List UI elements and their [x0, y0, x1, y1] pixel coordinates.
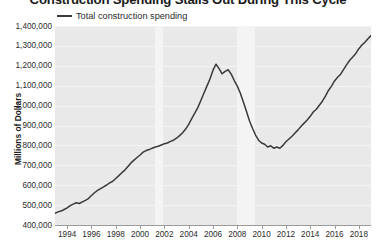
x-axis-tick-mark	[335, 225, 336, 229]
y-axis-tick-label: 800,000	[0, 141, 52, 150]
plot-area	[55, 26, 371, 225]
y-axis-tick-label: 700,000	[0, 161, 52, 170]
x-axis-tick-mark	[67, 225, 68, 229]
x-axis-tick-mark	[189, 225, 190, 229]
construction-spending-chart: Construction Spending Stalls Out During …	[0, 0, 376, 250]
x-axis-tick-mark	[262, 225, 263, 229]
x-axis-tick-mark	[359, 225, 360, 229]
x-axis-tick-mark	[286, 225, 287, 229]
y-axis-tick-label: 1,000,000	[0, 101, 52, 110]
y-axis-tick-label: 600,000	[0, 181, 52, 190]
legend-entry-label: Total construction spending	[76, 11, 187, 21]
legend-line-swatch	[57, 15, 72, 17]
y-axis-tick-label: 1,200,000	[0, 61, 52, 70]
x-axis-tick-labels: 1994199619982000200220042006200820102012…	[55, 225, 371, 249]
x-axis-tick-mark	[213, 225, 214, 229]
chart-legend: Total construction spending	[57, 10, 187, 22]
series-line-total-construction-spending	[55, 26, 371, 225]
x-axis-tick-mark	[237, 225, 238, 229]
y-axis-tick-label: 1,300,000	[0, 41, 52, 50]
y-axis-tick-label: 1,400,000	[0, 22, 52, 31]
x-axis-tick-mark	[140, 225, 141, 229]
y-axis-tick-label: 400,000	[0, 221, 52, 230]
x-axis-tick-mark	[116, 225, 117, 229]
x-axis-tick-mark	[310, 225, 311, 229]
x-axis-tick-mark	[91, 225, 92, 229]
x-axis-tick-mark	[164, 225, 165, 229]
y-axis-tick-label: 900,000	[0, 121, 52, 130]
x-axis-tick-label: 2018	[339, 230, 376, 240]
y-axis-tick-label: 500,000	[0, 201, 52, 210]
y-axis-tick-label: 1,100,000	[0, 81, 52, 90]
y-axis-tick-labels: 1,400,0001,300,0001,200,0001,100,0001,00…	[0, 26, 52, 225]
chart-title: Construction Spending Stalls Out During …	[0, 0, 376, 7]
